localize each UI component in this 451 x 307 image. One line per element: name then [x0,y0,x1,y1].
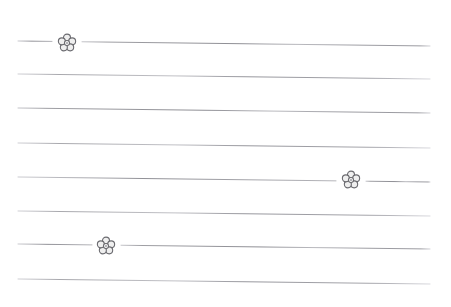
paper-sheet [0,0,451,307]
rule-line-6 [18,211,430,216]
rule-line-1-right [82,42,430,46]
rule-line-7-right [121,245,430,249]
rules-group [18,41,430,284]
rule-lines-layer [0,0,451,307]
rule-line-5-right [366,181,430,182]
rule-line-3 [18,108,430,113]
rule-line-5-left [18,177,336,181]
rule-line-8 [18,279,430,284]
rule-line-4 [18,143,430,148]
rule-line-2 [18,74,430,79]
rule-line-7-left [18,244,92,245]
